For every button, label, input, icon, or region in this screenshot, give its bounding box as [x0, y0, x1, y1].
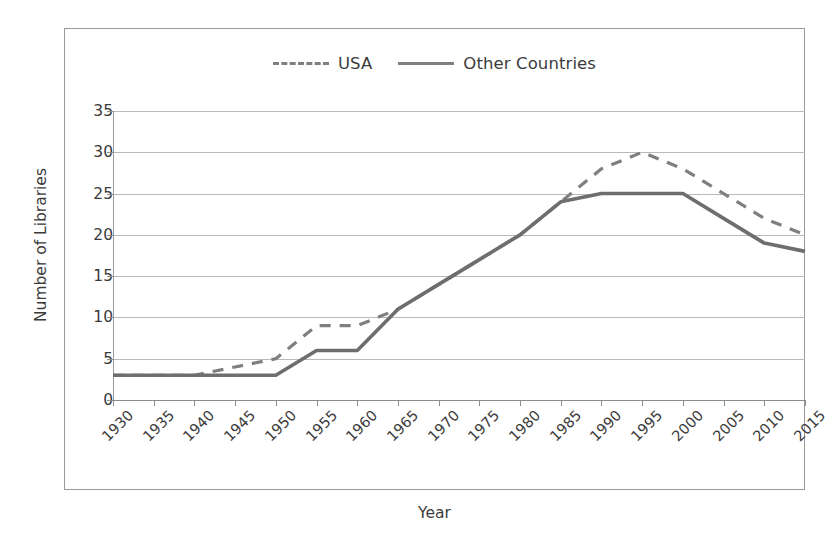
legend-swatch-dashed-icon — [273, 62, 329, 65]
series-lines — [113, 111, 805, 400]
legend-label-other-countries: Other Countries — [463, 54, 596, 73]
x-tick-label: 2015 — [676, 407, 829, 554]
series-line-other-countries — [113, 194, 805, 376]
chart-legend: USA Other Countries — [64, 46, 805, 80]
legend-swatch-solid-icon — [398, 62, 454, 65]
series-line-usa — [113, 152, 805, 375]
x-tick-mark — [805, 400, 806, 406]
y-axis-ticks: 05101520253035 — [47, 111, 113, 400]
legend-label-usa: USA — [338, 54, 372, 73]
legend-item-usa: USA — [273, 54, 372, 73]
x-axis-line — [113, 400, 805, 401]
x-axis-ticks: 1930193519401945195019551960196519701975… — [113, 400, 805, 490]
plot-area — [113, 111, 805, 400]
legend-item-other-countries: Other Countries — [398, 54, 596, 73]
chart-screenshot: USA Other Countries Number of Libraries … — [0, 0, 838, 554]
